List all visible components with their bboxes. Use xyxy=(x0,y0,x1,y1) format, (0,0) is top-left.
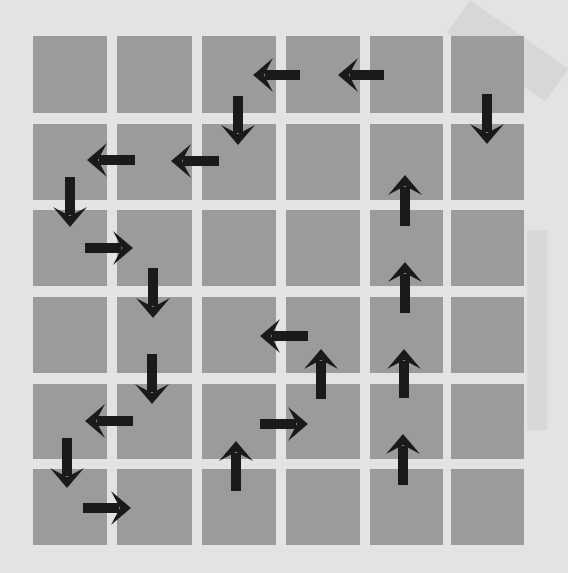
arrow-down-icon xyxy=(135,354,169,404)
arrow-right-icon xyxy=(260,407,308,441)
arrow-left-icon xyxy=(85,404,133,438)
arrow-up-icon xyxy=(386,434,420,485)
arrow-down-icon xyxy=(470,94,504,144)
arrow-up-icon xyxy=(387,349,421,398)
arrow-left-icon xyxy=(338,58,384,92)
arrow-right-icon xyxy=(85,231,133,265)
arrow-up-icon xyxy=(388,262,422,313)
arrow-right-icon xyxy=(83,491,131,525)
arrow-up-icon xyxy=(388,175,422,226)
arrow-up-icon xyxy=(304,349,338,399)
arrow-left-icon xyxy=(171,144,219,178)
arrow-left-icon xyxy=(87,143,135,177)
arrow-up-icon xyxy=(219,441,253,491)
arrow-down-icon xyxy=(221,96,255,145)
arrow-left-icon xyxy=(260,319,308,353)
arrow-down-icon xyxy=(50,438,84,488)
arrow-left-icon xyxy=(253,58,300,92)
arrow-down-icon xyxy=(136,268,170,318)
arrow-down-icon xyxy=(53,177,87,227)
